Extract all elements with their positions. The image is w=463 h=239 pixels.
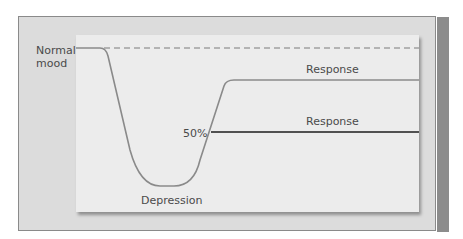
normal-mood-label-line2: mood bbox=[36, 57, 76, 70]
depression-label: Depression bbox=[141, 194, 203, 207]
mood-course-curves bbox=[0, 0, 463, 239]
normal-mood-label-line1: Normal bbox=[36, 44, 76, 57]
fifty-percent-label: 50% bbox=[183, 127, 207, 140]
normal-mood-label: Normal mood bbox=[36, 44, 76, 70]
response-lower-label: Response bbox=[306, 115, 359, 128]
response-upper-label: Response bbox=[306, 63, 359, 76]
mood-curve bbox=[76, 48, 419, 186]
